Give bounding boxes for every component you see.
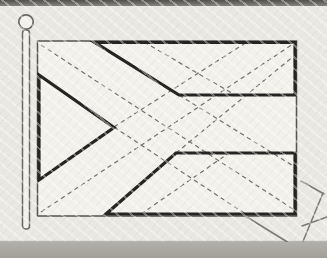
flag-construction-figure — [0, 0, 327, 258]
flagpole-ball-finial — [19, 15, 33, 29]
scan-bottom-strip — [0, 242, 327, 258]
flag-border — [38, 41, 297, 216]
flagpole — [19, 15, 33, 229]
scanned-page: { "page": { "description": "scanned-line… — [0, 0, 327, 258]
tag-line — [302, 217, 327, 226]
flag-outline — [38, 41, 297, 216]
flagpole-shaft — [23, 30, 30, 229]
tag-line — [301, 181, 324, 194]
